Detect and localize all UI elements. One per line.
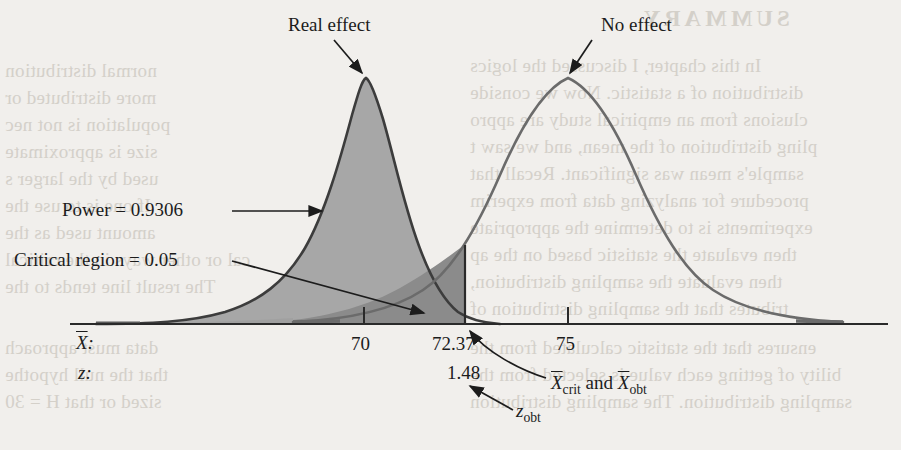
xcrit-leader-arrow: [470, 331, 546, 378]
real-effect-label: Real effect: [288, 14, 370, 36]
zobt-label: zobt: [516, 400, 541, 426]
xcrit-symbol: X: [551, 372, 563, 393]
no-effect-leader-arrow: [570, 40, 592, 73]
zobt-subscript: obt: [523, 410, 540, 425]
real-effect-leader-arrow: [334, 40, 362, 73]
z-axis-colon: :: [85, 362, 91, 383]
critical-region-label: Critical region = 0.05: [14, 249, 178, 271]
tick-label-70: 70: [351, 333, 370, 355]
no-effect-right-tail-baseline: [796, 321, 843, 322]
tick-label-72-37: 72.37: [432, 333, 475, 355]
xbar-axis-label: X:: [76, 332, 94, 354]
xcrit-xobt-label: Xcrit and Xobt: [551, 372, 647, 398]
tick-label-75: 75: [556, 333, 575, 355]
z-value-label: 1.48: [447, 362, 480, 384]
xcrit-and-word: and: [586, 372, 613, 393]
xobt-symbol: X: [618, 372, 630, 393]
z-axis-label: z:: [78, 362, 92, 384]
no-effect-left-tail-baseline: [293, 321, 340, 322]
zobt-leader-arrow: [470, 386, 513, 410]
xobt-subscript: obt: [629, 382, 646, 397]
xbar-axis-colon: :: [88, 332, 94, 353]
xcrit-subscript: crit: [563, 382, 581, 397]
no-effect-label: No effect: [601, 14, 672, 36]
power-label: Power = 0.9306: [62, 199, 183, 221]
xbar-axis-symbol: X: [76, 332, 88, 353]
